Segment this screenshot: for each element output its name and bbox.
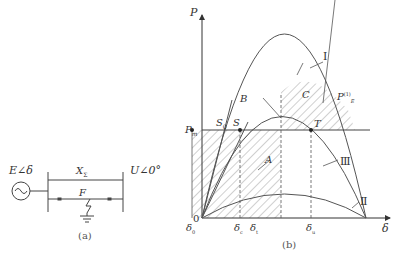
label-curve-I: Ⅰ <box>323 50 327 63</box>
fault-lightning-icon <box>86 199 91 213</box>
point-T <box>309 128 313 132</box>
y-axis-label: P <box>190 6 197 19</box>
label-T: T <box>314 118 321 129</box>
label-B: B <box>240 93 247 104</box>
label-curve-II: Ⅱ <box>360 195 367 208</box>
pm-label: Pm <box>185 124 197 137</box>
caption-a: (a) <box>78 230 92 241</box>
bus-label: U∠0° <box>130 164 161 177</box>
label-A: A <box>265 154 272 165</box>
x-axis-label: δ <box>382 222 389 235</box>
circuit-diagram <box>12 172 123 222</box>
fault-label: F <box>79 187 86 198</box>
label-pe: P(1)E <box>337 91 354 104</box>
tick-delta-c: δc <box>234 222 243 235</box>
label-C: C <box>302 89 310 100</box>
power-angle-plot <box>190 0 390 218</box>
breaker-right-icon <box>108 198 111 200</box>
breaker-left-icon <box>58 198 61 200</box>
tick-delta-0: δ0 <box>186 222 195 235</box>
point-S <box>238 128 242 132</box>
sine-wave-icon <box>15 189 27 194</box>
diagram-root: E∠δ U∠0° XΣ F (a) P δ 0 Pm S0 S B C T A … <box>0 0 398 258</box>
label-S: S <box>233 117 240 128</box>
caption-b: (b) <box>282 239 296 250</box>
tick-delta-u: δu <box>306 222 315 235</box>
tick-delta-t: δt <box>250 222 258 235</box>
label-S0: S0 <box>216 117 227 130</box>
label-curve-III: Ⅲ <box>340 155 351 168</box>
source-label: E∠δ <box>9 164 33 177</box>
reactance-label: XΣ <box>76 165 87 178</box>
